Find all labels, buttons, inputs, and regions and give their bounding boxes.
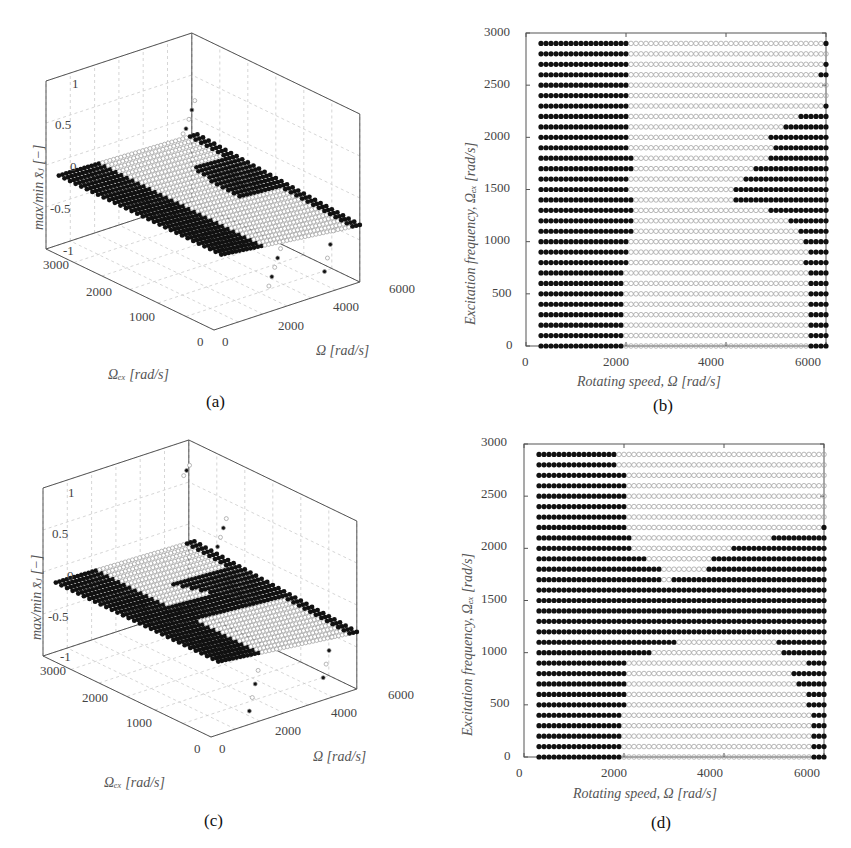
panel-d-plot	[430, 420, 851, 848]
y-tick-2500: 2500	[481, 486, 507, 502]
panel-a-3d-chart: 1 0.5 0 -0.5 -1 3000 2000 1000 0 0 2000 …	[0, 0, 430, 420]
x-axis-label: Ω [rad/s]	[316, 343, 369, 359]
y-tick-2500: 2500	[484, 76, 510, 92]
y-tick-500: 500	[490, 695, 510, 711]
x-tick-6000: 6000	[388, 687, 414, 703]
x-axis-label: Rotating speed, Ω [rad/s]	[577, 374, 721, 390]
x-tick-4000: 4000	[697, 765, 723, 781]
panel-b-stability-map: 3000 2500 2000 1500 1000 500 0 0 2000 40…	[430, 0, 851, 420]
x-tick-6000: 6000	[794, 765, 820, 781]
z-tick-minus-0.5: -0.5	[48, 609, 69, 625]
x-tick-2000: 2000	[601, 765, 627, 781]
z-tick-0: 0	[67, 568, 74, 584]
markers	[536, 452, 826, 760]
y-axis-label: Excitation frequency, Ωₑₓ [rad/s]	[463, 142, 479, 325]
panel-c-plot	[0, 420, 430, 848]
z-tick-minus-0.5: -0.5	[50, 201, 71, 217]
y-tick-2000: 2000	[82, 690, 108, 706]
y-tick-2000: 2000	[86, 284, 112, 300]
caption-d: (d)	[651, 813, 671, 833]
panel-d-stability-map: 3000 2500 2000 1500 1000 500 0 0 2000 40…	[430, 420, 851, 848]
x-axis-label: Ω [rad/s]	[313, 749, 366, 765]
caption-b: (b)	[653, 396, 673, 416]
y-axis-label: Excitation frequency, Ωₑₓ [rad/s]	[460, 553, 476, 736]
y-tick-1500: 1500	[484, 180, 510, 196]
z-tick-0.5: 0.5	[52, 526, 68, 542]
y-tick-3000: 3000	[481, 434, 507, 450]
markers	[538, 41, 828, 349]
y-tick-1000: 1000	[484, 232, 510, 248]
y-tick-2000: 2000	[481, 538, 507, 554]
x-tick-4000: 4000	[333, 299, 359, 315]
x-tick-6000: 6000	[795, 354, 821, 370]
y-axis-label: Ωₑₓ [rad/s]	[104, 775, 165, 791]
y-tick-1000: 1000	[126, 715, 152, 731]
x-tick-2000: 2000	[603, 354, 629, 370]
z-axis-label: max/min x̄ⱼ [−]	[30, 145, 47, 230]
x-tick-2000: 2000	[278, 318, 304, 334]
z-tick-0.5: 0.5	[55, 117, 71, 133]
y-tick-0: 0	[194, 741, 201, 757]
caption-c: (c)	[204, 811, 223, 831]
z-tick-0: 0	[70, 159, 77, 175]
y-tick-3000: 3000	[484, 24, 510, 40]
y-axis-label: Ωₑₓ [rad/s]	[108, 367, 169, 383]
y-tick-1000: 1000	[481, 643, 507, 659]
panel-c-3d-chart: 1 0.5 0 -0.5 -1 3000 2000 1000 0 0 2000 …	[0, 420, 430, 848]
y-tick-0: 0	[197, 334, 204, 350]
x-tick-0: 0	[522, 354, 529, 370]
caption-a: (a)	[206, 392, 225, 412]
x-tick-0: 0	[516, 765, 523, 781]
y-tick-3000: 3000	[43, 257, 69, 273]
x-tick-0: 0	[222, 334, 229, 350]
y-tick-0: 0	[504, 748, 511, 764]
x-tick-4000: 4000	[698, 354, 724, 370]
x-tick-6000: 6000	[389, 281, 415, 297]
x-tick-4000: 4000	[331, 705, 357, 721]
y-tick-500: 500	[492, 285, 512, 301]
markers-3d	[56, 99, 362, 288]
x-tick-0: 0	[219, 741, 226, 757]
y-tick-0: 0	[506, 337, 513, 353]
z-tick-1: 1	[72, 76, 79, 92]
y-tick-1500: 1500	[481, 591, 507, 607]
panel-b-plot	[430, 0, 851, 420]
y-tick-2000: 2000	[484, 128, 510, 144]
y-tick-3000: 3000	[40, 663, 66, 679]
x-axis-label: Rotating speed, Ω [rad/s]	[573, 786, 717, 802]
z-tick-1: 1	[68, 485, 75, 501]
x-tick-2000: 2000	[275, 723, 301, 739]
z-axis-label: max/min x̄ⱼ [−]	[28, 555, 45, 640]
y-tick-1000: 1000	[129, 309, 155, 325]
